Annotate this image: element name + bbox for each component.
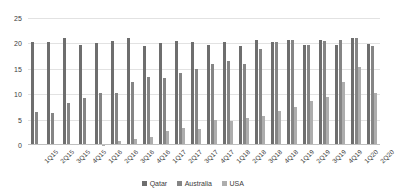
bar-group — [140, 18, 156, 145]
y-axis-tick-label: 15 — [14, 65, 22, 72]
bar — [227, 61, 230, 145]
x-axis-tick-label: 4Q16 — [155, 148, 171, 164]
bar — [351, 38, 354, 145]
x-axis-tick-label: 1Q18 — [235, 148, 251, 164]
bar — [271, 42, 274, 145]
bar — [147, 77, 150, 145]
bar — [303, 45, 306, 145]
bar-group — [76, 18, 92, 145]
x-axis-tick-label: 3Q18 — [267, 148, 283, 164]
x-axis-tick-label: 1Q19 — [299, 148, 315, 164]
legend-item[interactable]: Australia — [177, 180, 212, 187]
legend-swatch-icon — [222, 181, 227, 186]
bar — [323, 41, 326, 145]
legend-swatch-icon — [142, 181, 147, 186]
x-axis-tick-label: 2Q17 — [187, 148, 203, 164]
bar — [259, 49, 262, 145]
x-axis-tick-label: 4Q17 — [219, 148, 235, 164]
bar — [239, 46, 242, 145]
bar — [287, 40, 290, 145]
bar — [166, 131, 169, 145]
legend-swatch-icon — [177, 181, 182, 186]
bar — [374, 93, 377, 145]
bar — [182, 128, 185, 145]
plot-area — [28, 18, 380, 145]
bar-group — [188, 18, 204, 145]
x-axis: 1Q152Q153Q154Q151Q162Q163Q164Q161Q172Q17… — [28, 146, 380, 176]
bar — [326, 97, 329, 145]
bar — [223, 42, 226, 145]
bar — [83, 98, 86, 145]
x-axis-tick-label: 1Q20 — [363, 148, 379, 164]
y-axis-tick-label: 25 — [14, 15, 22, 22]
x-axis-tick-label: 2Q19 — [315, 148, 331, 164]
x-axis-tick-label: 4Q18 — [283, 148, 299, 164]
x-axis-tick-label: 2Q20 — [379, 148, 395, 164]
bar — [291, 40, 294, 145]
bar-group — [364, 18, 380, 145]
bar — [63, 38, 66, 145]
bar — [342, 82, 345, 145]
axis-baseline — [28, 144, 380, 145]
bar — [111, 41, 114, 145]
legend-label: Australia — [185, 180, 212, 187]
bar — [127, 38, 130, 145]
bar — [47, 42, 50, 145]
legend-item[interactable]: Qatar — [142, 180, 167, 187]
bar — [355, 38, 358, 145]
bar — [335, 45, 338, 145]
bar — [275, 42, 278, 145]
bar-group — [92, 18, 108, 145]
bar-group — [108, 18, 124, 145]
bar-group — [348, 18, 364, 145]
bar — [246, 118, 249, 145]
x-axis-tick-label: 2Q18 — [251, 148, 267, 164]
bar — [175, 41, 178, 145]
bar — [115, 93, 118, 145]
bar-group — [124, 18, 140, 145]
bar — [230, 121, 233, 145]
bar — [294, 107, 297, 145]
bar-group — [220, 18, 236, 145]
bar — [367, 44, 370, 145]
bar — [131, 82, 134, 145]
bar — [198, 129, 201, 145]
bar-group — [316, 18, 332, 145]
x-axis-tick-label: 3Q16 — [139, 148, 155, 164]
bar-group — [60, 18, 76, 145]
y-axis-tick-label: 5 — [18, 116, 22, 123]
bar — [207, 45, 210, 145]
y-axis: 0510152025 — [0, 18, 26, 145]
bar — [99, 93, 102, 145]
bar — [262, 116, 265, 145]
bar — [339, 40, 342, 145]
x-axis-tick-label: 1Q16 — [107, 148, 123, 164]
bar — [163, 78, 166, 145]
y-axis-tick-label: 20 — [14, 40, 22, 47]
bar — [243, 64, 246, 145]
bar — [51, 113, 54, 146]
bar — [79, 45, 82, 145]
bar-group — [268, 18, 284, 145]
bar-group — [172, 18, 188, 145]
bar — [319, 40, 322, 145]
x-axis-tick-label: 3Q17 — [203, 148, 219, 164]
bar-group — [204, 18, 220, 145]
bar — [307, 45, 310, 145]
bar — [278, 111, 281, 145]
bar-group — [44, 18, 60, 145]
x-axis-tick-label: 4Q19 — [347, 148, 363, 164]
x-axis-tick-label: 4Q15 — [91, 148, 107, 164]
x-axis-tick-label: 1Q15 — [43, 148, 59, 164]
bar — [211, 64, 214, 145]
bar — [95, 43, 98, 145]
bar — [143, 46, 146, 145]
bar-group — [252, 18, 268, 145]
bar — [358, 67, 361, 145]
bar-group — [332, 18, 348, 145]
bar — [67, 103, 70, 145]
legend-item[interactable]: USA — [222, 180, 244, 187]
bar — [255, 40, 258, 145]
bar — [214, 120, 217, 145]
bar-group — [156, 18, 172, 145]
